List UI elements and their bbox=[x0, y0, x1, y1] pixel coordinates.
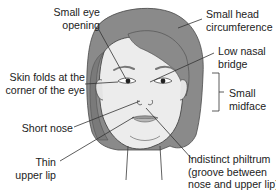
label-line: Small bbox=[229, 87, 266, 100]
label-line: Indistinct philtrum bbox=[188, 153, 276, 166]
label-line: opening bbox=[40, 19, 100, 32]
label-line: Small head bbox=[206, 8, 273, 21]
left-pupil bbox=[126, 79, 131, 84]
label-line: Thin bbox=[10, 156, 56, 169]
label-line: midface bbox=[229, 100, 266, 113]
facial-features-diagram: Small eye opening Skin folds at the corn… bbox=[0, 0, 276, 193]
label-line: bridge bbox=[218, 58, 266, 71]
label-short-nose: Short nose bbox=[10, 122, 73, 135]
label-line: Skin folds at the bbox=[0, 71, 85, 84]
label-line: Short nose bbox=[10, 122, 73, 135]
label-line: corner of the eye bbox=[0, 84, 85, 97]
label-indistinct-philtrum: Indistinct philtrum (groove between nose… bbox=[188, 153, 276, 191]
label-line: (groove between bbox=[188, 166, 276, 179]
label-line: upper lip bbox=[10, 169, 56, 182]
label-small-eye-opening: Small eye opening bbox=[40, 6, 100, 31]
midface-bracket bbox=[212, 73, 219, 111]
label-small-head: Small head circumference bbox=[206, 8, 273, 33]
right-pupil bbox=[161, 79, 166, 84]
label-skin-folds: Skin folds at the corner of the eye bbox=[0, 71, 85, 96]
label-line: nose and upper lip) bbox=[188, 178, 276, 191]
label-line: circumference bbox=[206, 21, 273, 34]
label-low-nasal-bridge: Low nasal bridge bbox=[218, 45, 266, 70]
label-line: Low nasal bbox=[218, 45, 266, 58]
label-small-midface: Small midface bbox=[229, 87, 266, 112]
neck bbox=[126, 146, 162, 180]
label-thin-upper-lip: Thin upper lip bbox=[10, 156, 56, 181]
label-line: Small eye bbox=[40, 6, 100, 19]
